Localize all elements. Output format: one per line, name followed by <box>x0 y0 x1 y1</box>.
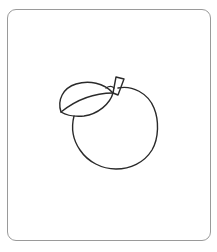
stem-icon <box>113 77 124 95</box>
fruit-drawing <box>0 0 217 252</box>
fruit-body-outline <box>73 87 158 169</box>
leaf-icon <box>60 82 113 116</box>
leaf-stem-joint <box>106 87 114 89</box>
leaf-midrib <box>61 93 113 112</box>
